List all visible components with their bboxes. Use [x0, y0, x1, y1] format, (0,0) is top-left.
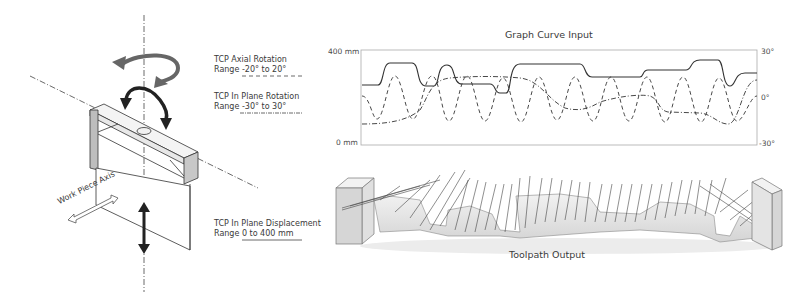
axial-rotation-arrow-icon: [112, 55, 178, 88]
machine-illustration: [0, 0, 320, 302]
left-axis-top-label: 400 mm: [328, 47, 359, 56]
displacement-title: TCP In Plane Displacement: [214, 219, 321, 229]
axial-rotation-curve: [362, 76, 757, 122]
in-plane-rotation-title: TCP In Plane Rotation: [214, 92, 299, 102]
displacement-range: Range 0 to 400 mm: [214, 229, 294, 239]
in-plane-rotation-range: Range -30° to 30°: [214, 102, 286, 112]
right-axis-top-label: 30°: [761, 47, 774, 56]
right-end-block: [752, 178, 782, 250]
left-axis-bottom-label: 0 mm: [336, 138, 358, 147]
toolpath-title: Toolpath Output: [509, 249, 585, 260]
right-axis-middle-label: 0°: [761, 93, 770, 102]
tool-vectors: [342, 170, 760, 232]
left-end-block: [336, 178, 374, 244]
graph-title: Graph Curve Input: [505, 29, 593, 40]
axial-rotation-title: TCP Axial Rotation: [214, 55, 287, 65]
axial-rotation-range: Range -20° to 20°: [214, 65, 286, 75]
in-plane-rotation-curve: [362, 77, 757, 125]
work-piece-body: [374, 194, 756, 242]
displacement-curve: [362, 60, 757, 93]
right-axis-bottom-label: -30°: [759, 139, 775, 148]
graph-frame: [361, 50, 757, 145]
